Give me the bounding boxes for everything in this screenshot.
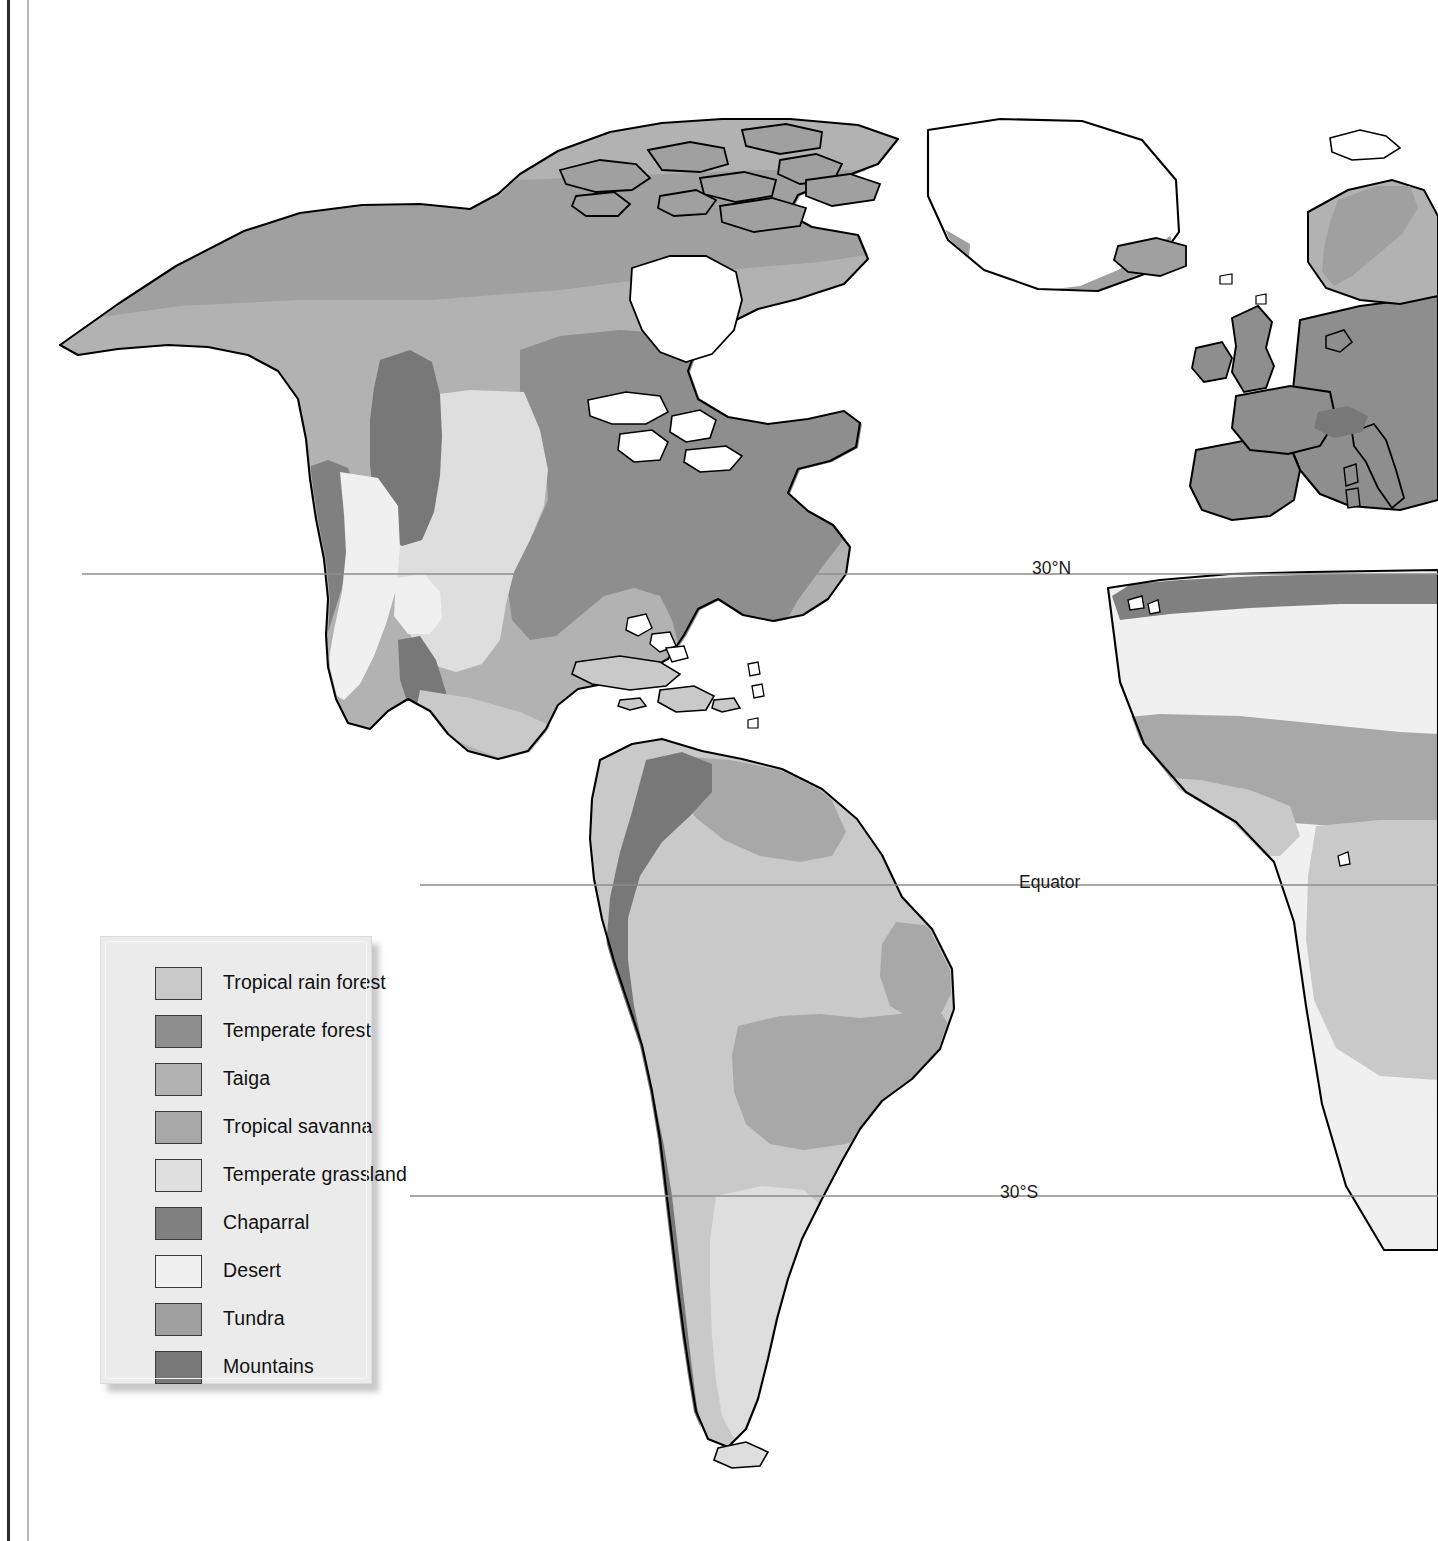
legend-swatch-temperate-forest [155, 1015, 202, 1048]
legend-swatch-tundra [155, 1303, 202, 1336]
legend-label-desert: Desert [223, 1261, 281, 1281]
legend-item-chaparral: Chaparral [101, 1199, 371, 1247]
latitude-label-equator: Equator [1019, 874, 1080, 892]
legend-label-tundra: Tundra [223, 1309, 285, 1329]
legend-swatch-mountains [155, 1351, 202, 1384]
legend-item-temperate-grassland: Temperate grassland [101, 1151, 371, 1199]
desert-region-atacama [586, 962, 630, 1226]
legend-swatch-temperate-grassland [155, 1159, 202, 1192]
legend-label-temperate-forest: Temperate forest [223, 1021, 371, 1041]
legend-label-tropical-savanna: Tropical savanna [223, 1117, 372, 1137]
legend-label-mountains: Mountains [223, 1357, 314, 1377]
iceland-group [1114, 238, 1186, 276]
latitude-label-30s: 30°S [1000, 1184, 1038, 1202]
map-page: .f-rain { fill:#c9c9c9; } .f-tempf { fil… [0, 0, 1438, 1541]
south-america-group [586, 739, 956, 1468]
legend-swatch-chaparral [155, 1207, 202, 1240]
tropical-savanna-region-northeast-brazil [880, 922, 956, 1020]
africa-group [1096, 554, 1438, 1250]
great-britain-landmass [1232, 306, 1274, 392]
legend-list: Tropical rain forestTemperate forestTaig… [101, 937, 371, 1391]
legend-item-tundra: Tundra [101, 1295, 371, 1343]
legend-item-mountains: Mountains [101, 1343, 371, 1391]
legend-swatch-tropical-savanna [155, 1111, 202, 1144]
legend-swatch-tropical-rain-forest [155, 967, 202, 1000]
legend-label-chaparral: Chaparral [223, 1213, 310, 1233]
legend-item-tropical-savanna: Tropical savanna [101, 1103, 371, 1151]
greenland-group [920, 119, 1179, 304]
ireland-landmass [1192, 342, 1232, 382]
legend-swatch-desert [155, 1255, 202, 1288]
legend-item-tropical-rain-forest: Tropical rain forest [101, 959, 371, 1007]
legend-label-temperate-grassland: Temperate grassland [223, 1165, 407, 1185]
biome-legend: Tropical rain forestTemperate forestTaig… [100, 936, 372, 1384]
legend-item-taiga: Taiga [101, 1055, 371, 1103]
legend-label-tropical-rain-forest: Tropical rain forest [223, 973, 386, 993]
legend-label-taiga: Taiga [223, 1069, 270, 1089]
tropical-savanna-region-cerrado [732, 1008, 952, 1150]
legend-item-temperate-forest: Temperate forest [101, 1007, 371, 1055]
europe-group [1190, 130, 1438, 520]
legend-item-desert: Desert [101, 1247, 371, 1295]
legend-swatch-taiga [155, 1063, 202, 1096]
latitude-label-30n: 30°N [1032, 560, 1071, 578]
